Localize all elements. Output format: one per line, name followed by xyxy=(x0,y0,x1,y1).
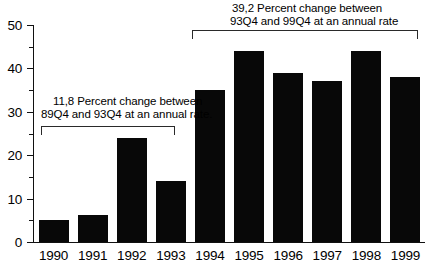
y-tick-0: 0 xyxy=(27,242,34,243)
bar-slot-1998: 1998 xyxy=(347,25,386,242)
x-axis-label-1990: 1990 xyxy=(39,249,68,263)
bar-1993 xyxy=(156,181,186,242)
bar-1998 xyxy=(351,51,381,242)
y-axis-label-30: 30 xyxy=(7,106,22,120)
right-bracket-cap-end xyxy=(417,30,418,39)
bar-1999 xyxy=(390,77,420,242)
x-axis-label-1992: 1992 xyxy=(117,249,146,263)
left-annotation-line1: 11,8 Percent change between xyxy=(53,95,202,108)
bar-slot-1994: 1994 xyxy=(190,25,229,242)
bar-1990 xyxy=(39,220,69,242)
y-axis-label-50: 50 xyxy=(7,19,22,33)
x-axis-label-1998: 1998 xyxy=(352,249,381,263)
bar-1991 xyxy=(78,215,108,242)
x-axis-label-1991: 1991 xyxy=(78,249,107,263)
right-bracket-cap-start xyxy=(192,30,193,39)
bar-slot-1996: 1996 xyxy=(269,25,308,242)
bar-1996 xyxy=(273,73,303,242)
left-annotation-bracket xyxy=(41,126,175,135)
y-axis-label-40: 40 xyxy=(7,63,22,77)
bar-1995 xyxy=(234,51,264,242)
x-axis-label-1993: 1993 xyxy=(156,249,185,263)
bar-1997 xyxy=(312,81,342,242)
right-annotation-line2: 93Q4 and 99Q4 at an annual rate xyxy=(230,15,398,28)
bar-slot-1997: 1997 xyxy=(308,25,347,242)
x-axis-label-1996: 1996 xyxy=(274,249,303,263)
left-bracket-line xyxy=(41,126,175,127)
y-tick-10: 10 xyxy=(27,199,34,200)
x-axis-label-1994: 1994 xyxy=(195,249,224,263)
y-tick-50: 50 xyxy=(27,25,34,26)
left-bracket-cap-end xyxy=(174,126,175,135)
y-tick-30: 30 xyxy=(27,112,34,113)
right-annotation-bracket xyxy=(192,30,418,39)
bar-chart: 0 10 20 30 40 50 1990 xyxy=(0,0,428,267)
right-bracket-line xyxy=(192,30,418,31)
y-axis-label-20: 20 xyxy=(7,149,22,163)
bar-slot-1999: 1999 xyxy=(386,25,425,242)
x-axis-label-1999: 1999 xyxy=(391,249,420,263)
y-tick-40: 40 xyxy=(27,68,34,69)
left-annotation-line2: 89Q4 and 93Q4 at an annual rate. xyxy=(41,108,212,121)
left-bracket-cap-start xyxy=(41,126,42,135)
y-axis-label-0: 0 xyxy=(15,236,22,250)
y-axis-label-10: 10 xyxy=(7,193,22,207)
x-axis-label-1995: 1995 xyxy=(234,249,263,263)
x-axis-label-1997: 1997 xyxy=(313,249,342,263)
y-tick-20: 20 xyxy=(27,155,34,156)
bar-1992 xyxy=(117,138,147,242)
bar-slot-1995: 1995 xyxy=(230,25,269,242)
right-annotation-line1: 39,2 Percent change between xyxy=(232,2,382,15)
